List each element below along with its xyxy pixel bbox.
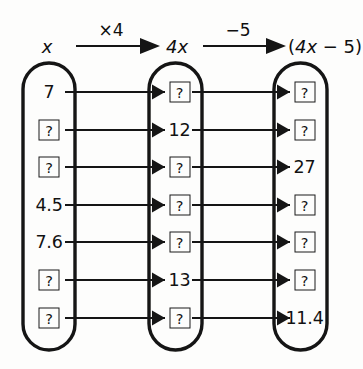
unknown-cell[interactable]: ? — [294, 195, 315, 216]
unknown-cell[interactable]: ? — [169, 82, 190, 103]
unknown-cell[interactable]: ? — [294, 232, 315, 253]
header-output-label: (4x − 5) — [288, 36, 362, 57]
value-cell[interactable]: 11.4 — [285, 308, 323, 328]
function-machine-diagram: x ×4 4x −5 (4x − 5) 7??4.57.6???12???13?… — [0, 0, 363, 369]
unknown-cell[interactable]: ? — [294, 82, 315, 103]
value-cell[interactable]: 4.5 — [35, 195, 62, 215]
unknown-cell[interactable]: ? — [39, 157, 60, 178]
unknown-cell[interactable]: ? — [39, 308, 60, 329]
unknown-cell[interactable]: ? — [169, 195, 190, 216]
value-cell[interactable]: 7.6 — [35, 232, 62, 252]
unknown-cell[interactable]: ? — [169, 232, 190, 253]
unknown-cell[interactable]: ? — [39, 120, 60, 141]
value-cell[interactable]: 27 — [294, 157, 316, 177]
value-cell[interactable]: 13 — [169, 270, 191, 290]
unknown-cell[interactable]: ? — [39, 270, 60, 291]
header-input-label: x — [42, 36, 53, 57]
operation-1-label: ×4 — [98, 20, 123, 40]
value-cell[interactable]: 7 — [44, 82, 55, 102]
value-cell[interactable]: 12 — [169, 120, 191, 140]
unknown-cell[interactable]: ? — [169, 157, 190, 178]
operation-arrow-1 — [76, 38, 160, 54]
header-middle-label: 4x — [166, 36, 188, 57]
unknown-cell[interactable]: ? — [294, 120, 315, 141]
unknown-cell[interactable]: ? — [294, 270, 315, 291]
unknown-cell[interactable]: ? — [169, 308, 190, 329]
operation-arrow-2 — [203, 38, 286, 54]
operation-2-label: −5 — [225, 20, 250, 40]
